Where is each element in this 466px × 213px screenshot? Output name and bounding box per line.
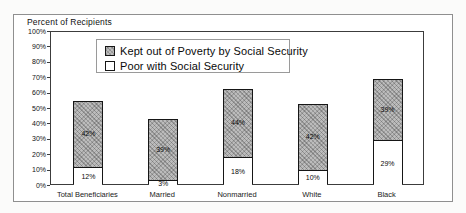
poor-segment: 3% xyxy=(149,180,177,185)
y-tick-mark xyxy=(47,123,50,124)
poor-swatch-icon xyxy=(105,61,115,71)
stacked-bar-black: 39%29% xyxy=(373,79,403,184)
y-tick-label: 80% xyxy=(18,58,46,65)
y-tick-mark xyxy=(47,62,50,63)
poor-value-label: 12% xyxy=(74,173,102,180)
kept-out-value-label: 39% xyxy=(374,106,402,113)
y-tick-label: 60% xyxy=(18,89,46,96)
x-category-label: Black xyxy=(377,190,395,199)
chart-title: Percent of Recipients xyxy=(27,17,112,27)
poor-segment: 10% xyxy=(299,170,327,185)
y-tick-label: 10% xyxy=(18,166,46,173)
y-tick-label: 40% xyxy=(18,120,46,127)
legend-item-kept-out: Kept out of Poverty by Social Security xyxy=(105,44,289,57)
y-tick-label: 100% xyxy=(18,28,46,35)
kept-out-segment: 42% xyxy=(299,105,327,170)
x-category-label: White xyxy=(302,190,321,199)
legend-label: Kept out of Poverty by Social Security xyxy=(120,45,308,57)
kept-out-value-label: 42% xyxy=(74,130,102,137)
y-tick-mark xyxy=(47,170,50,171)
legend-label: Poor with Social Security xyxy=(120,60,244,72)
kept-out-value-label: 44% xyxy=(224,119,252,126)
x-category-label: Total Beneficiaries xyxy=(57,190,118,199)
poor-segment: 12% xyxy=(74,167,102,185)
y-tick-mark xyxy=(47,154,50,155)
stacked-bar-nonmarried: 44%18% xyxy=(223,89,253,184)
y-tick-mark xyxy=(47,46,50,47)
poor-segment: 18% xyxy=(224,157,252,185)
y-tick-mark xyxy=(47,31,50,32)
legend-item-poor: Poor with Social Security xyxy=(105,59,289,72)
poor-segment: 29% xyxy=(374,140,402,185)
stacked-bar-white: 42%10% xyxy=(298,104,328,184)
x-category-label: Nonmarried xyxy=(217,190,256,199)
stacked-bar-married: 39%3% xyxy=(148,119,178,184)
poor-value-label: 3% xyxy=(149,180,177,187)
y-tick-label: 20% xyxy=(18,151,46,158)
poor-value-label: 18% xyxy=(224,168,252,175)
poor-value-label: 10% xyxy=(299,174,327,181)
x-category-label: Married xyxy=(149,190,174,199)
kept-out-segment: 39% xyxy=(374,80,402,140)
kept-out-segment: 39% xyxy=(149,120,177,180)
stacked-bar-total-beneficiaries: 42%12% xyxy=(73,101,103,184)
y-tick-label: 30% xyxy=(18,135,46,142)
y-tick-mark xyxy=(47,77,50,78)
y-tick-mark xyxy=(47,93,50,94)
kept-out-segment: 42% xyxy=(74,102,102,167)
kept-out-segment: 44% xyxy=(224,90,252,158)
y-tick-mark xyxy=(47,108,50,109)
kept-out-value-label: 39% xyxy=(149,146,177,153)
y-tick-label: 70% xyxy=(18,74,46,81)
y-tick-label: 90% xyxy=(18,43,46,50)
kept-out-value-label: 42% xyxy=(299,133,327,140)
y-tick-label: 50% xyxy=(18,105,46,112)
y-tick-mark xyxy=(47,185,50,186)
poor-value-label: 29% xyxy=(374,160,402,167)
chart-figure: Percent of Recipients 42%12%39%3%44%18%4… xyxy=(0,0,466,213)
legend: Kept out of Poverty by Social Security P… xyxy=(96,39,290,73)
y-tick-label: 0% xyxy=(18,182,46,189)
kept-out-swatch-icon xyxy=(105,46,115,56)
y-tick-mark xyxy=(47,139,50,140)
